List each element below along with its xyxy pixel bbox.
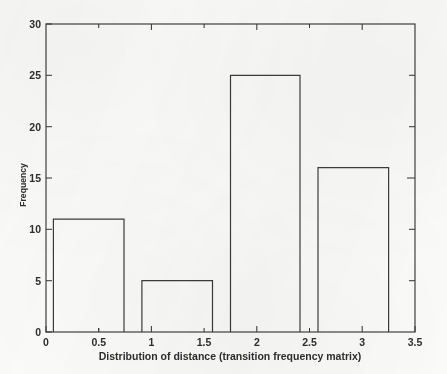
bar-bin-4 [318, 168, 389, 332]
x-axis-title: Distribution of distance (transition fre… [99, 350, 362, 362]
y-tick-labels: 0 5 10 15 20 25 30 [29, 18, 41, 338]
x-tick-label-2: 2 [254, 336, 260, 348]
bar-bin-2 [142, 281, 213, 332]
x-tick-label-3p5: 3.5 [408, 336, 423, 348]
bar-bin-1 [53, 219, 124, 332]
y-tick-label-0: 0 [35, 326, 41, 338]
y-tick-label-30: 30 [29, 18, 41, 30]
y-tick-label-25: 25 [29, 69, 41, 81]
bar-bin-3 [231, 75, 301, 332]
x-tick-labels: 0 0.5 1 1.5 2 2.5 3 3.5 [43, 336, 422, 348]
x-tick-label-1: 1 [148, 336, 154, 348]
histogram-bars [53, 75, 388, 332]
y-tick-label-20: 20 [29, 121, 41, 133]
x-tick-label-2p5: 2.5 [302, 336, 317, 348]
x-tick-label-3: 3 [359, 336, 365, 348]
x-tick-label-1p5: 1.5 [197, 336, 212, 348]
x-tick-label-0: 0 [43, 336, 49, 348]
x-tick-label-0p5: 0.5 [91, 336, 106, 348]
y-tick-label-5: 5 [35, 275, 41, 287]
figure-container: 0 5 10 15 20 25 30 0 0.5 1 1.5 2 2.5 3 3… [0, 0, 447, 374]
y-tick-label-10: 10 [29, 223, 41, 235]
histogram-plot: 0 5 10 15 20 25 30 0 0.5 1 1.5 2 2.5 3 3… [0, 0, 447, 374]
y-tick-label-15: 15 [29, 172, 41, 184]
y-axis-title: Frequency [18, 163, 28, 207]
